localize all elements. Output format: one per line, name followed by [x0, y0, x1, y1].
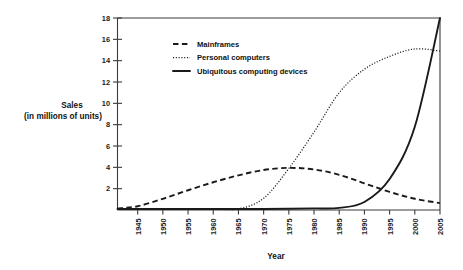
- x-tick-label: 1975: [285, 219, 294, 235]
- y-tick-label: 18: [102, 14, 110, 23]
- x-tick-label: 1990: [360, 219, 369, 235]
- x-tick-label: 1960: [209, 219, 218, 235]
- x-tick-label: 1965: [234, 219, 243, 235]
- y-axis-title-line1: Sales: [61, 101, 83, 110]
- y-tick-label: 12: [102, 78, 110, 87]
- x-tick-label: 1970: [260, 219, 269, 235]
- y-tick-label: 4: [106, 163, 111, 172]
- x-tick-label: 1955: [184, 219, 193, 235]
- x-tick-label: 2005: [436, 219, 445, 235]
- series-line-mainframes: [118, 168, 441, 209]
- series-line-ubiquitous-computing-devices: [118, 18, 441, 209]
- y-tick-label: 16: [102, 35, 110, 44]
- x-tick-label: 1985: [335, 219, 344, 235]
- legend-label-0: Mainframes: [197, 40, 239, 49]
- x-tick-label: 1995: [386, 219, 395, 235]
- y-tick-label: 14: [102, 56, 111, 65]
- y-tick-label: 10: [102, 99, 110, 108]
- y-tick-label: 6: [106, 142, 110, 151]
- legend-label-1: Personal computers: [197, 53, 270, 62]
- x-tick-label: 1980: [310, 219, 319, 235]
- legend-label-2: Ubiquitous computing devices: [197, 67, 308, 76]
- y-tick-label: 2: [106, 184, 110, 193]
- x-tick-label: 1945: [134, 219, 143, 235]
- chart-canvas: 2468101214161819451950195519601965197019…: [0, 0, 463, 270]
- sales-line-chart: 2468101214161819451950195519601965197019…: [0, 0, 463, 270]
- x-tick-label: 2000: [411, 219, 420, 235]
- y-tick-label: 8: [106, 120, 110, 129]
- x-axis-title: Year: [267, 252, 285, 261]
- x-tick-label: 1950: [159, 219, 168, 235]
- y-axis-title-line2: (in millions of units): [24, 112, 102, 121]
